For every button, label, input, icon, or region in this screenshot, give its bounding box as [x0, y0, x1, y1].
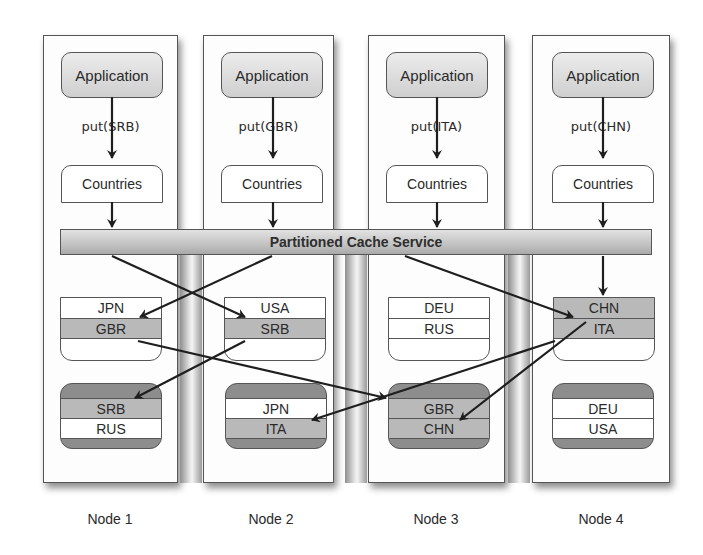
node-1-countries: Countries [61, 165, 163, 203]
partition-entry: JPN [61, 298, 161, 319]
node-3-countries: Countries [386, 165, 488, 203]
partition-entry: ITA [554, 319, 654, 339]
node-4-countries: Countries [552, 165, 654, 203]
countries-label: Countries [82, 176, 142, 192]
pipe-3-4 [508, 255, 530, 483]
application-label: Application [75, 67, 148, 84]
node-3-application: Application [386, 52, 488, 98]
node-4-put-label: put(CHN) [533, 119, 669, 134]
node-2-put-label: put(GBR) [204, 119, 333, 134]
partition-entry: CHN [554, 298, 654, 319]
pipe-2-3 [345, 255, 367, 483]
countries-label: Countries [573, 176, 633, 192]
application-label: Application [566, 67, 639, 84]
node-3-label: Node 3 [386, 511, 486, 527]
partitioned-cache-service-bar: Partitioned Cache Service [60, 229, 652, 255]
partition-entry: DEU [553, 399, 653, 419]
backup-header [226, 384, 326, 399]
pipe-1-2 [180, 255, 202, 483]
node-2-backup-partition: JPN ITA [225, 383, 327, 449]
node-1-label: Node 1 [60, 511, 160, 527]
application-label: Application [400, 67, 473, 84]
partition-entry: RUS [389, 319, 489, 339]
node-1-primary-partition: JPN GBR [60, 297, 162, 361]
node-3-primary-partition: DEU RUS [388, 297, 490, 361]
countries-label: Countries [242, 176, 302, 192]
partition-entry: USA [225, 298, 325, 319]
cache-service-label: Partitioned Cache Service [270, 234, 443, 250]
partition-entry: SRB [61, 399, 161, 419]
partition-entry: RUS [61, 419, 161, 439]
node-2-primary-partition: USA SRB [224, 297, 326, 361]
backup-header [61, 384, 161, 399]
partition-entry: ITA [226, 419, 326, 439]
node-4-backup-partition: DEU USA [552, 383, 654, 449]
node-2-application: Application [221, 52, 323, 98]
partition-entry: DEU [389, 298, 489, 319]
node-4-primary-partition: CHN ITA [553, 297, 655, 361]
backup-header [553, 384, 653, 399]
application-label: Application [235, 67, 308, 84]
countries-label: Countries [407, 176, 467, 192]
node-2-countries: Countries [221, 165, 323, 203]
node-2-label: Node 2 [221, 511, 321, 527]
node-1-put-label: put(SRB) [44, 119, 177, 134]
partition-entry: USA [553, 419, 653, 439]
node-4-label: Node 4 [551, 511, 651, 527]
partition-entry: SRB [225, 319, 325, 339]
node-3-put-label: put(ITA) [369, 119, 504, 134]
node-1-application: Application [61, 52, 163, 98]
partition-entry: GBR [61, 319, 161, 339]
partition-entry: JPN [226, 399, 326, 419]
partition-entry: CHN [389, 419, 489, 439]
backup-header [389, 384, 489, 399]
node-1-backup-partition: SRB RUS [60, 383, 162, 449]
partition-entry: GBR [389, 399, 489, 419]
node-3-backup-partition: GBR CHN [388, 383, 490, 449]
node-4-application: Application [552, 52, 654, 98]
